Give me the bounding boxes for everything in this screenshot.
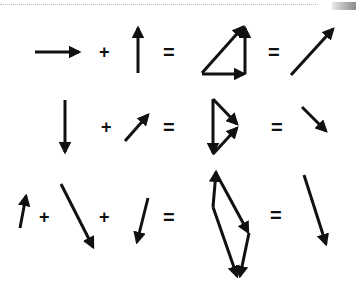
row3-plus-1: +	[39, 207, 50, 227]
row3-construct-resultant-arrow	[213, 207, 237, 276]
row3-result-arrow	[304, 175, 326, 244]
row1-equals: =	[163, 41, 175, 63]
row3-construct-short-up-arrow	[213, 172, 216, 207]
row2-construct-resultant-arrow	[213, 99, 237, 124]
row1-result-arrow	[291, 29, 333, 75]
row2-result-arrow	[302, 107, 326, 131]
row3-equals: =	[163, 206, 175, 228]
row2-equals: =	[163, 116, 175, 138]
row2-equals-2: =	[271, 116, 283, 138]
row3-equals-2: =	[270, 204, 282, 226]
row3-plus-2: +	[99, 207, 110, 227]
row3-construct-long-downright-arrow	[216, 173, 248, 232]
vector-addition-diagram: + = = + = = + + = =	[0, 0, 356, 292]
row3-term2-long-downright-arrow	[61, 184, 93, 247]
row3-construct-downleft-arrow	[240, 233, 249, 276]
row1-construct-resultant-arrow	[202, 27, 243, 73]
row1-equals-2: =	[268, 41, 280, 63]
row2-plus: +	[101, 117, 112, 137]
row3-term3-downleft-arrow	[137, 198, 148, 242]
row1-plus: +	[99, 42, 110, 62]
row3-term1-short-up-arrow	[20, 196, 26, 228]
row2-term2-upright-arrow	[125, 115, 148, 141]
row2-construct-upright-arrow	[213, 128, 237, 154]
